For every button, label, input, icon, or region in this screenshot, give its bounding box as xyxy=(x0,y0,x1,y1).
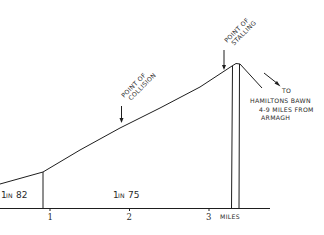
destination-line1: TO xyxy=(281,87,291,94)
destination-annotation: TO HAMILTONS BAWN 4-9 MILES FROM ARMAGH xyxy=(250,87,314,121)
destination-line3: 4-9 MILES FROM xyxy=(259,106,314,113)
gradient-75-in: IN xyxy=(118,192,125,199)
direction-arrow-icon xyxy=(264,73,281,87)
gradient-profile-diagram: 1 2 3 MILES 1 IN 82 1 IN 75 POINT OF COL… xyxy=(0,0,324,235)
tick-label-3: 3 xyxy=(206,212,211,222)
gradient-75-num-b: 75 xyxy=(128,190,139,200)
descent-line xyxy=(240,64,262,88)
tick-label-2: 2 xyxy=(127,212,132,222)
summit-right-post xyxy=(239,64,240,209)
gradient-label-1-in-75: 1 IN 75 xyxy=(113,190,139,200)
summit-left-post xyxy=(232,66,233,209)
gradient-82-in: IN xyxy=(6,192,13,199)
tick-label-1: 1 xyxy=(48,212,53,222)
collision-arrow-head-icon xyxy=(120,118,124,123)
stalling-annotation: POINT OF STALLING xyxy=(222,14,257,70)
collision-annotation: POINT OF COLLISION xyxy=(120,66,158,123)
destination-line2: HAMILTONS BAWN xyxy=(250,97,311,104)
gradient-label-1-in-82: 1 IN 82 xyxy=(1,190,27,200)
axis-unit-label: MILES xyxy=(220,213,240,220)
gradient-profile-line xyxy=(0,64,240,185)
gradient-82-num-b: 82 xyxy=(16,190,27,200)
destination-line4: ARMAGH xyxy=(261,114,290,121)
stalling-arrow-head-icon xyxy=(222,65,226,70)
